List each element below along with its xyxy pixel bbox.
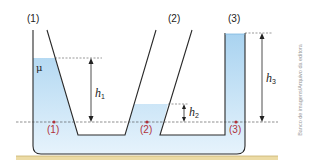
- h2-arrow: [182, 104, 186, 122]
- h3-label: h3: [266, 71, 276, 85]
- image-credit-text: Banco de imagens/Arquivo da editora: [297, 44, 303, 136]
- tube-3-label: (3): [228, 13, 240, 24]
- h2-label: h2: [189, 105, 199, 119]
- h1-label: h1: [95, 86, 105, 100]
- tube-2-label: (2): [168, 13, 180, 24]
- point-1-label: (1): [47, 124, 59, 135]
- point-2-label: (2): [140, 124, 152, 135]
- ground-surface: [16, 156, 278, 160]
- communicating-vessels-diagram: h1 h2 h3 μ (1) (2) (3) (1) (2) (3): [0, 0, 313, 164]
- tube-1-label: (1): [27, 13, 39, 24]
- density-label: μ: [36, 62, 43, 73]
- h1-arrow: [89, 58, 94, 122]
- point-3-label: (3): [229, 124, 241, 135]
- water-body: [33, 34, 245, 154]
- h3-arrow: [260, 33, 265, 122]
- divider-2-3: [160, 30, 225, 135]
- image-credit: Banco de imagens/Arquivo da editora: [292, 22, 308, 158]
